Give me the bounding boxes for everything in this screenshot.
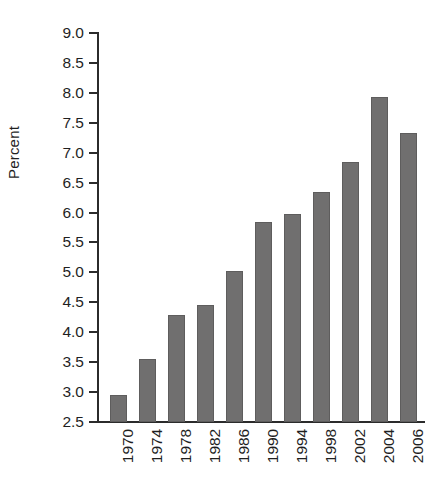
y-axis-tick-label-text: 7.5 [62, 115, 84, 131]
y-axis-tick-mark [89, 212, 98, 214]
y-axis-tick-label-text: 5.0 [62, 264, 84, 280]
x-axis-tick-label-text: 1990 [264, 429, 281, 463]
y-axis-tick-mark [89, 32, 98, 34]
bar [110, 395, 127, 422]
x-axis-tick-label-text: 1998 [322, 429, 339, 463]
y-axis-tick-label-text: 6.5 [62, 175, 84, 191]
x-axis-tick-label-text: 2002 [351, 429, 368, 463]
x-axis-tick-label-text: 1982 [206, 429, 223, 463]
y-axis-tick-mark [89, 241, 98, 243]
y-axis-tick-mark [89, 271, 98, 273]
y-axis-tick-label-text: 9.0 [62, 25, 84, 41]
x-axis-tick-label-text: 1978 [177, 429, 194, 463]
bar [400, 133, 417, 422]
y-axis-tick-mark [89, 391, 98, 393]
y-axis-tick-label-text: 2.5 [62, 414, 84, 430]
x-axis-tick-label-text: 2004 [380, 429, 397, 463]
bar [371, 97, 388, 422]
x-axis-tick-label-text: 2006 [409, 429, 426, 463]
bar [284, 214, 301, 422]
bar [197, 305, 214, 422]
y-axis-tick-label-text: 3.5 [62, 354, 84, 370]
y-axis-tick-mark [89, 361, 98, 363]
bar [313, 192, 330, 422]
y-axis-tick-label-text: 5.5 [62, 234, 84, 250]
y-axis-tick-label-text: 4.0 [62, 324, 84, 340]
y-axis-tick-label-text: 3.0 [62, 384, 84, 400]
y-axis-tick-label-text: 8.5 [62, 55, 84, 71]
plot-area [98, 33, 425, 422]
bar [255, 222, 272, 422]
y-axis-tick-mark [89, 421, 98, 423]
y-axis-tick-label-text: 6.0 [62, 205, 84, 221]
y-axis-tick-mark [89, 92, 98, 94]
bar [168, 315, 185, 422]
y-axis-tick-label-text: 7.0 [62, 145, 84, 161]
y-axis-tick-mark [89, 122, 98, 124]
bar [226, 271, 243, 422]
y-axis-tick-mark [89, 301, 98, 303]
y-axis-tick-label-text: 8.0 [62, 85, 84, 101]
y-axis-tick-mark [89, 62, 98, 64]
bar [139, 359, 156, 422]
x-axis-tick-label-text: 1970 [119, 429, 136, 463]
x-axis-tick-label-text: 1994 [293, 429, 310, 463]
bar-chart: Percent 9.08.58.07.57.06.56.05.55.04.54.… [0, 0, 445, 489]
bar [342, 162, 359, 422]
y-axis-tick-mark [89, 182, 98, 184]
y-axis-tick-mark [89, 152, 98, 154]
x-axis-tick-label-text: 1974 [148, 429, 165, 463]
y-axis-ticks: 9.08.58.07.57.06.56.05.55.04.54.03.53.02… [0, 0, 98, 489]
x-axis-ticks: 1970197419781982198619901994199820022004… [98, 423, 425, 489]
y-axis-tick-label-text: 4.5 [62, 294, 84, 310]
y-axis-tick-mark [89, 331, 98, 333]
x-axis-tick-label-text: 1986 [235, 429, 252, 463]
